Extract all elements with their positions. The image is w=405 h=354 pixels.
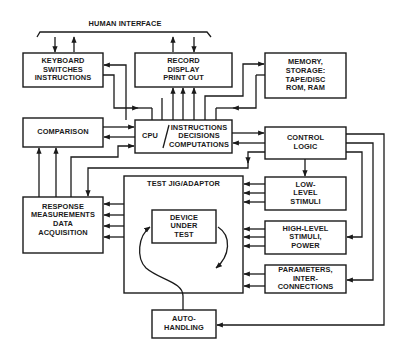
arrow-control-to-high-level	[346, 152, 362, 237]
response-line: ACQUISITION	[38, 229, 88, 238]
record-label: RECORD DISPLAY PRINT OUT	[135, 53, 232, 87]
memory-line: ROM, RAM	[286, 84, 325, 93]
memory-label: MEMORY, STORAGE: TAPE/DISC ROM, RAM	[265, 53, 346, 98]
comparison-label: COMPARISON	[23, 118, 103, 147]
auto-handling-label: AUTO- HANDLING	[152, 310, 216, 338]
comparison-line: COMPARISON	[37, 128, 88, 137]
test-jig-label: TEST JIG/ADAPTOR	[124, 178, 243, 190]
control-logic-label: CONTROL LOGIC	[265, 127, 346, 159]
cpu-text: CPU	[142, 132, 158, 141]
parameters-label: PARAMETERS, INTER- CONNECTIONS	[265, 265, 346, 293]
high-level-line: POWER	[291, 242, 319, 251]
cpu-left-label: CPU	[137, 120, 163, 153]
response-label: RESPONSE MEASUREMENTS DATA ACQUISITION	[23, 197, 103, 243]
arrow-keyboard-to-cpu	[103, 75, 138, 108]
arrow-cpu-to-keyboard	[104, 65, 126, 120]
control-logic-line: LOGIC	[294, 143, 318, 152]
cpu-right-label: INSTRUCTIONS DECISIONS COMPUTATIONS	[166, 120, 232, 153]
test-jig-title: TEST JIG/ADAPTOR	[147, 180, 220, 189]
low-level-line: STIMULI	[290, 198, 320, 207]
device-under-test-label: DEVICE UNDER TEST	[152, 210, 216, 243]
dut-line: TEST	[174, 231, 193, 240]
arrow-memory-to-cpu	[233, 75, 256, 108]
keyboard-label: KEYBOARD SWITCHES INSTRUCTIONS	[23, 53, 103, 87]
auto-handling-line: HANDLING	[164, 324, 204, 333]
arrow-control-to-parameters	[346, 143, 373, 280]
parameters-line: CONNECTIONS	[278, 283, 334, 292]
keyboard-line: INSTRUCTIONS	[35, 74, 92, 83]
record-line: PRINT OUT	[163, 74, 204, 83]
human-interface-brace	[37, 32, 211, 37]
human-interface-text: HUMAN INTERFACE	[89, 20, 162, 29]
cpu-line: COMPUTATIONS	[169, 141, 229, 150]
high-level-label: HIGH-LEVEL STIMULI, POWER	[265, 221, 346, 254]
human-interface-label: HUMAN INTERFACE	[60, 18, 190, 30]
low-level-label: LOW- LEVEL STIMULI	[265, 177, 346, 210]
